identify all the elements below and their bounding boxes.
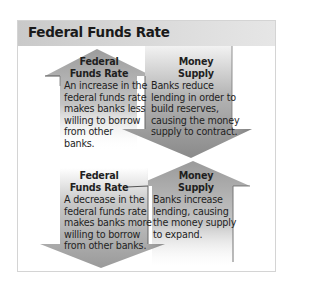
title-line: Supply (158, 68, 234, 80)
body-line: federal funds rate (64, 206, 154, 218)
money-supply-contract-text: Banks reduce lending in order to build r… (151, 80, 241, 138)
body-line: causing the money (151, 115, 241, 127)
body-line: banks. (64, 138, 154, 150)
body-line: lending in order to (151, 92, 241, 104)
body-line: lending, causing (153, 206, 243, 218)
body-line: willing to borrow (64, 115, 154, 127)
title-line: Supply (158, 182, 234, 194)
body-line: An increase in the (64, 80, 154, 92)
body-line: makes banks more (64, 217, 154, 229)
money-supply-contract-title: Money Supply (158, 56, 234, 79)
title-line: Federal (66, 56, 132, 68)
body-line: makes banks less (64, 103, 154, 115)
body-line: willing to borrow (64, 229, 154, 241)
body-line: to expand. (153, 229, 243, 241)
money-supply-expand-title: Money Supply (158, 170, 234, 193)
body-line: Banks increase (153, 194, 243, 206)
body-line: A decrease in the (64, 194, 154, 206)
money-supply-expand-text: Banks increase lending, causing the mone… (153, 194, 243, 240)
title-line: Money (158, 56, 234, 68)
fed-rate-increase-title: Federal Funds Rate (66, 56, 132, 79)
body-line: Banks reduce (151, 80, 241, 92)
body-line: supply to contract. (151, 126, 241, 138)
body-line: from other banks. (64, 240, 154, 252)
title-line: Funds Rate (66, 182, 132, 194)
title-line: Money (158, 170, 234, 182)
fed-rate-decrease-title: Federal Funds Rate (66, 170, 132, 193)
title-line: Funds Rate (66, 68, 132, 80)
body-line: from other (64, 126, 154, 138)
body-line: federal funds rate (64, 92, 154, 104)
title-line: Federal (66, 170, 132, 182)
body-line: build reserves, (151, 103, 241, 115)
fed-rate-decrease-text: A decrease in the federal funds rate mak… (64, 194, 154, 252)
body-line: the money supply (153, 217, 243, 229)
fed-rate-increase-text: An increase in the federal funds rate ma… (64, 80, 154, 150)
